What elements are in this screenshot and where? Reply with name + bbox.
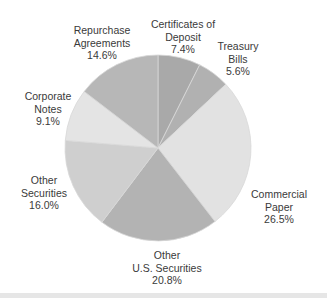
label-treasury-bills: Treasury Bills 5.6% — [217, 40, 258, 78]
label-repurchase-agreements: Repurchase Agreements 14.6% — [74, 24, 131, 62]
bottom-border — [0, 293, 327, 298]
label-certificates-of-deposit: Certificates of Deposit 7.4% — [151, 18, 215, 56]
label-corporate-notes: Corporate Notes 9.1% — [25, 90, 72, 128]
label-other-us-securities: Other U.S. Securities 20.8% — [132, 249, 201, 287]
label-other-securities: Other Securities 16.0% — [21, 174, 67, 212]
pie-slices — [65, 55, 251, 241]
label-commercial-paper: Commercial Paper 26.5% — [251, 188, 307, 226]
